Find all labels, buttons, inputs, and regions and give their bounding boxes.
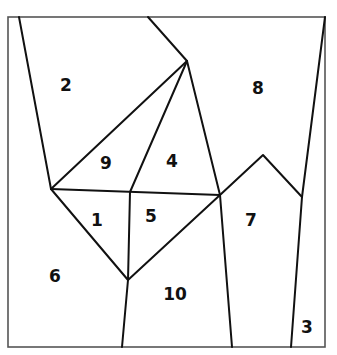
edge — [128, 195, 220, 280]
region-label-4: 4 — [166, 151, 178, 171]
region-label-8: 8 — [252, 78, 264, 98]
edge — [148, 17, 187, 61]
region-label-2: 2 — [60, 75, 72, 95]
edge — [19, 17, 51, 189]
edge — [51, 189, 128, 280]
edge — [122, 280, 128, 347]
edge — [130, 61, 187, 192]
edge — [128, 192, 130, 280]
region-label-6: 6 — [49, 266, 61, 286]
region-label-3: 3 — [301, 317, 313, 337]
region-labels: 1 2 3 4 5 6 7 8 9 10 — [49, 75, 313, 337]
edge — [220, 155, 302, 197]
partition-diagram: 1 2 3 4 5 6 7 8 9 10 — [0, 0, 337, 355]
edge — [51, 189, 220, 195]
edge — [220, 195, 232, 347]
region-label-1: 1 — [91, 210, 103, 230]
region-label-9: 9 — [100, 153, 112, 173]
region-label-7: 7 — [245, 210, 257, 230]
region-label-5: 5 — [145, 206, 157, 226]
region-label-10: 10 — [163, 284, 187, 304]
edge — [302, 17, 325, 197]
edge — [187, 61, 220, 195]
